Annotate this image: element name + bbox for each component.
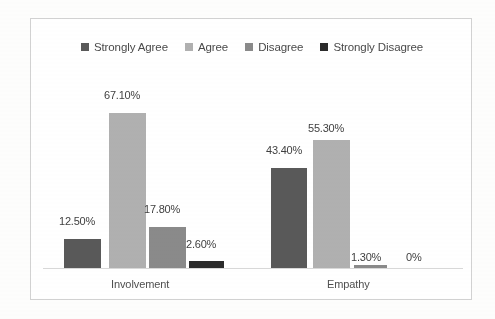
chart-frame: Strongly Agree Agree Disagree Strongly D… — [30, 18, 472, 300]
bar-value-label: 12.50% — [59, 215, 95, 227]
bar-empathy-disagree — [354, 265, 387, 268]
plot-area: 12.50% 67.10% 17.80% 2.60% 43.40% 55.30%… — [31, 19, 473, 301]
bar-value-label: 43.40% — [266, 144, 302, 156]
bar-involvement-disagree — [149, 227, 186, 268]
bar-empathy-agree — [313, 140, 350, 268]
bar-involvement-strongly-disagree — [189, 261, 224, 268]
bar-value-label: 0% — [406, 251, 422, 263]
category-label-involvement: Involvement — [111, 278, 169, 290]
bar-empathy-strongly-agree — [271, 168, 307, 268]
bar-involvement-strongly-agree — [64, 239, 101, 268]
bar-value-label: 67.10% — [104, 89, 140, 101]
category-axis-line — [43, 268, 463, 269]
bar-value-label: 2.60% — [186, 238, 216, 250]
bar-value-label: 17.80% — [144, 203, 180, 215]
bar-value-label: 55.30% — [308, 122, 344, 134]
bar-value-label: 1.30% — [351, 251, 381, 263]
bar-involvement-agree — [109, 113, 146, 268]
category-label-empathy: Empathy — [327, 278, 370, 290]
